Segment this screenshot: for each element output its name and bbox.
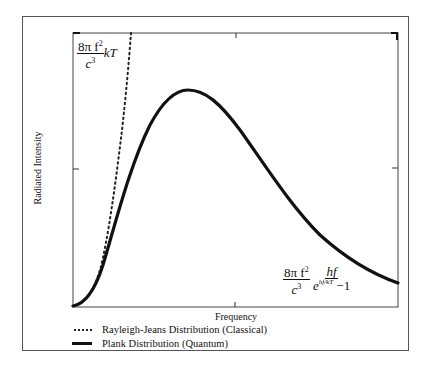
dotted-line-swatch	[72, 324, 92, 334]
legend: Rayleigh-Jeans Distribution (Classical) …	[72, 322, 267, 350]
solid-line-swatch	[72, 338, 92, 348]
legend-item-rayleigh-jeans: Rayleigh-Jeans Distribution (Classical)	[72, 322, 267, 336]
legend-label: Plank Distribution (Quantum)	[102, 338, 228, 349]
y-axis-label: Radiated Intensity	[32, 131, 43, 204]
x-axis-label: Frequency	[215, 311, 257, 322]
legend-item-planck: Plank Distribution (Quantum)	[72, 336, 267, 350]
planck-formula: 8π f2c3 hfehf/kT −1	[283, 263, 350, 297]
rayleigh-jeans-formula: 8π f2c3kT	[77, 37, 117, 71]
legend-label: Rayleigh-Jeans Distribution (Classical)	[102, 324, 267, 335]
